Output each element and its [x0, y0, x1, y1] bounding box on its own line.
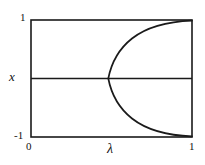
- x-tick-label-left: 0: [26, 141, 32, 152]
- y-axis-label: x: [9, 70, 15, 83]
- y-tick-label-top: 1: [20, 12, 26, 23]
- x-axis-label: λ: [107, 142, 113, 156]
- x-tick-label-right: 1: [189, 141, 195, 152]
- bifurcation-diagram-figure: x λ 1 -1 0 1: [0, 0, 205, 165]
- y-tick-label-bottom: -1: [14, 130, 23, 141]
